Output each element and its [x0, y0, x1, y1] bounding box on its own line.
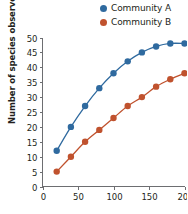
data-point-marker: [167, 40, 173, 46]
y-tick-label: 35: [27, 78, 38, 88]
data-point-marker: [139, 49, 145, 55]
data-point-marker: [181, 40, 187, 46]
y-tick-label: 45: [27, 48, 38, 58]
data-point-marker: [125, 58, 131, 64]
data-point-marker: [153, 83, 159, 89]
y-axis-ticks: 05101520253035404550: [27, 34, 43, 193]
data-series-layer: [54, 40, 188, 175]
x-tick-label: 200: [177, 192, 187, 202]
data-point-marker: [54, 168, 60, 174]
y-tick-label: 5: [32, 168, 37, 178]
data-point-marker: [54, 148, 60, 154]
x-tick-label: 100: [106, 192, 122, 202]
data-point-marker: [181, 70, 187, 76]
data-point-marker: [68, 154, 74, 160]
y-tick-label: 0: [32, 183, 37, 193]
y-tick-label: 40: [27, 63, 38, 73]
data-point-marker: [125, 103, 131, 109]
data-point-marker: [110, 70, 116, 76]
x-tick-label: 150: [141, 192, 157, 202]
data-point-marker: [153, 43, 159, 49]
y-tick-label: 15: [27, 138, 38, 148]
y-tick-label: 25: [27, 108, 38, 118]
data-point-marker: [82, 139, 88, 145]
plot-area: 05101520253035404550 050100150200: [0, 0, 187, 214]
data-point-marker: [167, 76, 173, 82]
y-tick-label: 50: [27, 34, 38, 44]
data-point-marker: [82, 103, 88, 109]
y-tick-label: 20: [27, 123, 38, 133]
x-tick-label: 50: [73, 192, 84, 202]
series-community-a: [54, 40, 188, 154]
species-accumulation-chart: Community A Community B Number of specie…: [0, 0, 187, 214]
data-point-marker: [139, 94, 145, 100]
data-point-marker: [96, 127, 102, 133]
y-tick-label: 30: [27, 93, 38, 103]
y-tick-label: 10: [27, 153, 38, 163]
data-point-marker: [110, 115, 116, 121]
x-tick-label: 0: [41, 192, 46, 202]
data-point-marker: [96, 85, 102, 91]
data-point-marker: [68, 124, 74, 130]
series-line: [57, 73, 185, 171]
series-line: [57, 43, 185, 151]
x-axis-ticks: 050100150200: [41, 187, 187, 202]
